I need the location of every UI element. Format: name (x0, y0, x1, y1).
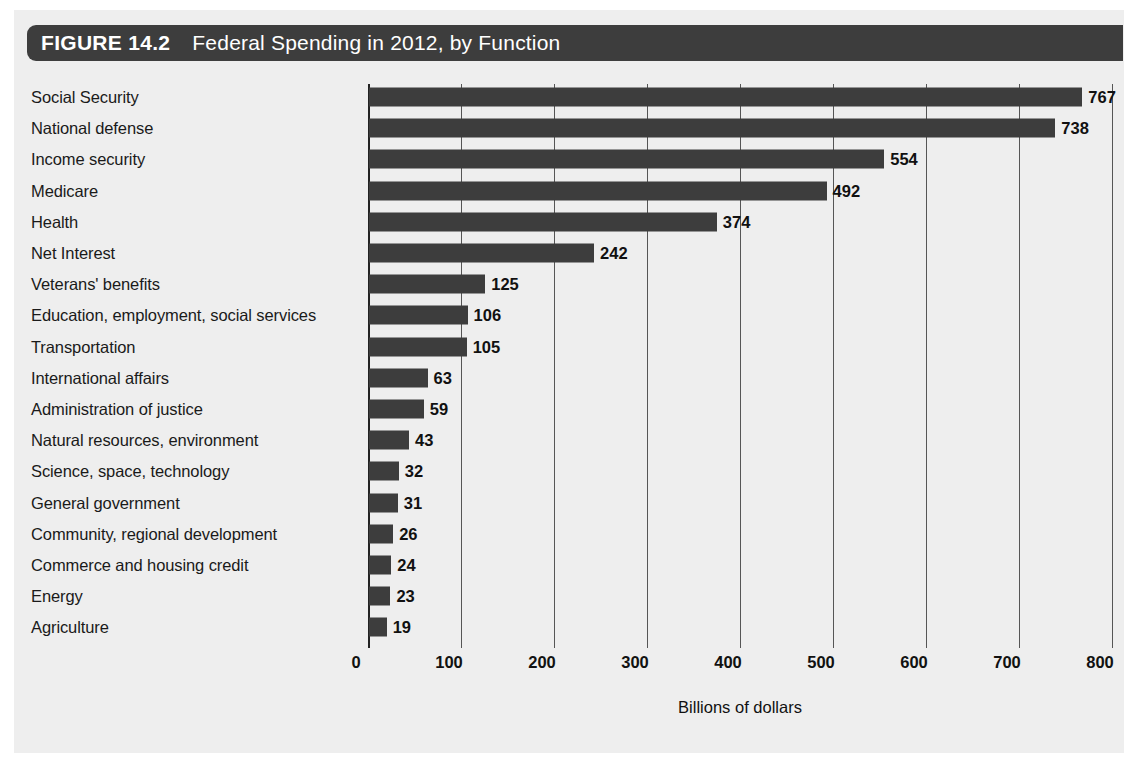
bar (369, 556, 391, 575)
category-label: Income security (31, 150, 145, 169)
gridline (926, 84, 927, 648)
bar (369, 119, 1055, 138)
bar-value-label: 374 (723, 212, 751, 231)
x-tick-label: 400 (714, 653, 742, 672)
bar (369, 368, 428, 387)
figure-container: FIGURE 14.2 Federal Spending in 2012, by… (0, 0, 1138, 763)
x-tick-label: 500 (807, 653, 835, 672)
bar-value-label: 31 (404, 493, 422, 512)
bar-value-label: 125 (491, 275, 519, 294)
x-tick-label: 100 (435, 653, 463, 672)
bar-value-label: 63 (434, 368, 452, 387)
bar-value-label: 738 (1061, 119, 1089, 138)
bar-value-label: 23 (396, 587, 414, 606)
bar (369, 212, 717, 231)
gridline (1019, 84, 1020, 648)
bar-chart: Social SecurityNational defenseIncome se… (0, 0, 1138, 763)
bar-value-label: 492 (833, 181, 861, 200)
category-label: Transportation (31, 337, 135, 356)
bar (369, 181, 827, 200)
bar (369, 431, 409, 450)
category-label: Medicare (31, 181, 98, 200)
x-axis-title: Billions of dollars (678, 698, 802, 717)
x-tick-label: 700 (993, 653, 1021, 672)
category-label: Administration of justice (31, 400, 203, 419)
bar-value-label: 24 (397, 556, 415, 575)
bar (369, 337, 467, 356)
bar-value-label: 59 (430, 400, 448, 419)
category-label: Social Security (31, 88, 139, 107)
category-label: Veterans' benefits (31, 275, 160, 294)
bar (369, 400, 424, 419)
bar-value-label: 106 (474, 306, 502, 325)
x-tick-label: 300 (621, 653, 649, 672)
bar (369, 244, 594, 263)
bar-value-label: 26 (399, 524, 417, 543)
category-label: Net Interest (31, 244, 115, 263)
category-label: Natural resources, environment (31, 431, 258, 450)
bar (369, 462, 399, 481)
bar (369, 587, 390, 606)
category-label: Energy (31, 587, 83, 606)
bar-value-label: 43 (415, 431, 433, 450)
bar-value-label: 19 (393, 618, 411, 637)
category-label: General government (31, 493, 180, 512)
category-label: National defense (31, 119, 153, 138)
category-label: Agriculture (31, 618, 109, 637)
category-label: Education, employment, social services (31, 306, 316, 325)
category-label: International affairs (31, 368, 169, 387)
bar-value-label: 32 (405, 462, 423, 481)
bar-value-label: 105 (473, 337, 501, 356)
bar-value-label: 242 (600, 244, 628, 263)
x-tick-label: 800 (1086, 653, 1114, 672)
x-tick-label: 200 (528, 653, 556, 672)
category-label: Science, space, technology (31, 462, 229, 481)
bar (369, 618, 387, 637)
bar (369, 493, 398, 512)
bar (369, 150, 884, 169)
bar (369, 524, 393, 543)
bar-value-label: 554 (890, 150, 918, 169)
category-label: Community, regional development (31, 524, 277, 543)
bar (369, 306, 468, 325)
bar (369, 275, 485, 294)
category-label: Commerce and housing credit (31, 556, 248, 575)
category-label: Health (31, 212, 78, 231)
bar (369, 88, 1082, 107)
x-tick-label: 600 (900, 653, 928, 672)
x-tick-label: 0 (351, 653, 360, 672)
bar-value-label: 767 (1088, 88, 1116, 107)
gridline (1112, 84, 1113, 648)
